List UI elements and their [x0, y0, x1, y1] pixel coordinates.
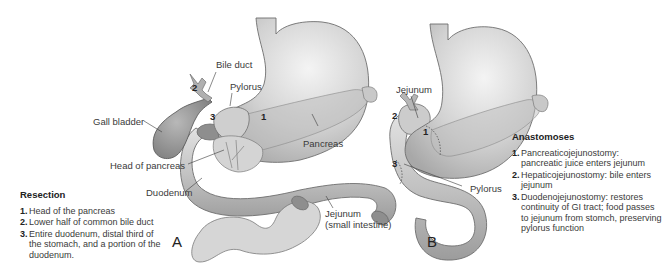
- anastomoses-title: Anastomoses: [512, 132, 662, 143]
- resection-item: 2.Lower half of common bile duct: [20, 217, 165, 228]
- anastomoses-legend: Anastomoses 1.Pancreaticojejunostomy: pa…: [512, 132, 662, 235]
- resection-item: 1.Head of the pancreas: [20, 206, 165, 217]
- label-jejunum-sub: (small intestine): [325, 219, 392, 230]
- label-head-of-pancreas: Head of pancreas: [110, 160, 185, 171]
- label-jejunum-b: Jejunum: [396, 84, 432, 95]
- label-pylorus-b: Pylorus: [470, 183, 502, 194]
- resection-legend: Resection 1.Head of the pancreas 2.Lower…: [20, 190, 165, 261]
- panel-a-letter: A: [172, 233, 182, 250]
- resection-title: Resection: [20, 190, 165, 201]
- marker-b-3: 3: [392, 158, 397, 169]
- marker-b-1: 1: [423, 126, 428, 137]
- anastomoses-item: 3.Duodenojejunostomy: restores continuit…: [512, 192, 662, 234]
- label-bile-duct: Bile duct: [216, 59, 252, 70]
- label-gall-bladder: Gall bladder: [93, 116, 144, 127]
- marker-a-1: 1: [261, 111, 266, 122]
- marker-a-3: 3: [210, 111, 215, 122]
- whipple-procedure-diagram: Bile duct Pylorus Gall bladder Pancreas …: [0, 0, 666, 272]
- resection-item: 3.Entire duodenum, distal third of the s…: [20, 229, 165, 261]
- marker-b-2: 2: [392, 110, 397, 121]
- panel-b-letter: B: [427, 233, 437, 250]
- label-pylorus-a: Pylorus: [230, 81, 262, 92]
- marker-a-2: 2: [192, 82, 197, 93]
- anastomoses-item: 2.Hepaticojejunostomy: bile enters jejun…: [512, 170, 662, 191]
- anastomoses-item: 1.Pancreaticojejunostomy: pancreatic jui…: [512, 148, 662, 169]
- label-jejunum-a: Jejunum: [325, 208, 361, 219]
- label-pancreas: Pancreas: [303, 138, 343, 149]
